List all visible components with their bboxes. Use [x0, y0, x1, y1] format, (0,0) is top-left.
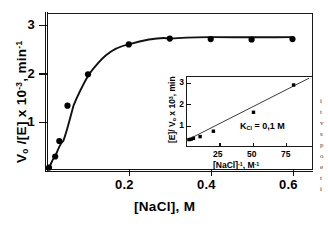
main-xtick-0.4 [211, 169, 212, 176]
inset-xlabel-head: [NaCl] [213, 160, 238, 170]
main-ytick-2 [39, 73, 47, 74]
inset-ylabel-sub-o: o [171, 118, 177, 121]
main-xtick-label-0.6: 0.6 [279, 177, 298, 192]
inset-ytick-1 [186, 126, 191, 127]
main-xtick-label-0.2: 0.2 [115, 177, 134, 192]
inset-xlabel-mid: , M [243, 160, 255, 170]
edge-line: s [320, 129, 328, 140]
inset-xtick-75 [286, 143, 287, 147]
inset-ylabel-mid: x 10 [167, 99, 177, 118]
inset-y-axis-title: [E]/ Vo x 103, min [167, 76, 177, 143]
inset-ytick-2 [186, 104, 191, 105]
inset-ylabel-exp: 3 [168, 96, 174, 99]
ylabel-exp-minus3: -3 [14, 82, 24, 90]
inset-xlabel-exp2: -1 [255, 161, 260, 167]
ylabel-exp-minus1: -1 [14, 41, 24, 49]
page-edge-text-column: i t v s p o e t i [320, 96, 328, 208]
inset-xtick-label-25: 25 [213, 149, 222, 159]
ylabel-v: V [14, 154, 29, 163]
inset-ytick-3 [186, 83, 191, 84]
edge-line: o [320, 151, 328, 162]
edge-line: t [320, 173, 328, 184]
main-y-axis [45, 12, 48, 171]
inset-x-axis-title: [NaCl]-1, M-1 [213, 160, 259, 170]
inset-ylabel-head: [E]/ V [167, 121, 177, 143]
inset-annotation-kcl: KCl = 0,1 M [240, 121, 285, 131]
annot-value: = 0,1 M [252, 121, 285, 131]
inset-ylabel-tail: , min [167, 76, 177, 96]
edge-line: i [320, 184, 328, 195]
inset-xtick-label-75: 75 [281, 149, 290, 159]
ylabel-mid: /[E] x 10 [14, 90, 29, 149]
inset-xtick-label-50: 50 [247, 149, 256, 159]
edge-line: i [320, 96, 328, 107]
main-xtick-label-0.4: 0.4 [197, 177, 216, 192]
main-y-axis-title: Vo /[E] x 10-3, min-1 [14, 41, 30, 163]
inset-plot-frame [186, 76, 313, 147]
main-xtick-0.6 [293, 169, 294, 176]
ylabel-sub-o: o [20, 148, 30, 153]
edge-line: v [320, 118, 328, 129]
inset-xtick-25 [219, 143, 220, 147]
edge-line: t [320, 107, 328, 118]
main-xtick-0.2 [129, 169, 130, 176]
main-ytick-3 [39, 25, 47, 26]
main-ytick-label-3: 3 [13, 17, 35, 32]
edge-line: e [320, 162, 328, 173]
main-x-axis-title-text: [NaCl], M [134, 199, 195, 214]
main-x-axis-title: [NaCl], M [134, 199, 195, 214]
inset-xtick-50 [253, 143, 254, 147]
ylabel-tail: , min [14, 49, 29, 82]
main-ytick-1 [39, 122, 47, 123]
main-x-axis [45, 169, 313, 172]
figure-panel: 1 2 3 0.2 0.4 0.6 [NaCl], M Vo /[E] x 10… [0, 0, 328, 227]
edge-line: p [320, 140, 328, 151]
